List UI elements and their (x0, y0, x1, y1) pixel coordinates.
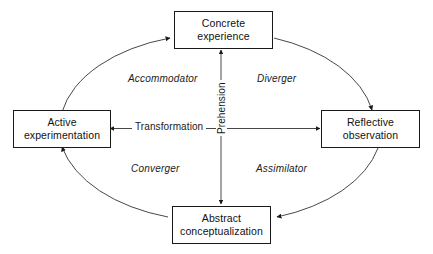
node-reflective-observation[interactable]: Reflective observation (321, 110, 420, 148)
quadrant-label-diverger: Diverger (257, 73, 296, 84)
quadrant-label-accommodator: Accommodator (128, 73, 198, 84)
axis-label-prehension: Prehension (216, 80, 227, 136)
node-reflective-observation-label: Reflective observation (343, 116, 398, 142)
node-abstract-conceptualization-label: Abstract conceptualization (180, 212, 263, 238)
diagram-canvas: Concrete experience Reflective observati… (0, 0, 433, 254)
quadrant-label-converger: Converger (131, 163, 180, 174)
quadrant-label-assimilator: Assimilator (256, 163, 307, 174)
axis-label-transformation: Transformation (132, 121, 206, 132)
node-concrete-experience[interactable]: Concrete experience (174, 11, 273, 49)
node-active-experimentation[interactable]: Active experimentation (13, 110, 111, 148)
arc-reflective-observation-to-abstract-conceptualization (277, 148, 378, 217)
node-active-experimentation-label: Active experimentation (24, 116, 100, 142)
arc-abstract-conceptualization-to-active-experimentation (62, 147, 168, 217)
node-concrete-experience-label: Concrete experience (197, 17, 249, 43)
node-abstract-conceptualization[interactable]: Abstract conceptualization (172, 206, 271, 244)
